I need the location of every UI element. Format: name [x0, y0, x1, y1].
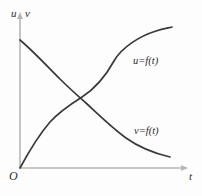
x-axis-label-t: t [189, 171, 192, 182]
origin-label: O [9, 170, 18, 182]
curve-u-increasing [20, 27, 172, 168]
curve-label-v: v=f(t) [134, 126, 159, 137]
figure-container: u v O t u=f(t) v=f(t) [0, 0, 202, 196]
curve-plot [0, 0, 202, 196]
y-axis-arrowhead [17, 12, 23, 19]
y-axis-label-v: v [25, 8, 30, 19]
curve-label-u: u=f(t) [133, 56, 158, 67]
x-axis-arrowhead [181, 165, 188, 171]
y-axis-label-u: u [11, 8, 17, 19]
